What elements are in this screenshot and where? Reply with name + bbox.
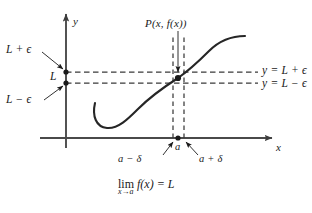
limit-caption: lim f(x) = Lx→a bbox=[118, 174, 174, 192]
label-line-upper-equation: y = L + ϵ bbox=[262, 65, 307, 77]
label-point-p: P(x, f(x)) bbox=[145, 18, 187, 29]
label-l-minus-epsilon: L − ϵ bbox=[6, 94, 31, 106]
label-l-plus-epsilon: L + ϵ bbox=[6, 44, 31, 56]
y-axis-dot-upper bbox=[63, 69, 68, 74]
label-line-lower-equation: y = L − ϵ bbox=[262, 78, 307, 90]
limit-function-equation: f(x) = L bbox=[137, 177, 174, 191]
label-l-value: L bbox=[50, 71, 57, 83]
label-a-minus-delta: a − δ bbox=[118, 154, 141, 165]
x-axis-label: x bbox=[276, 142, 281, 153]
leader-a-plus-delta bbox=[186, 142, 198, 155]
function-curve bbox=[94, 36, 245, 128]
limit-subscript: x→a bbox=[118, 187, 134, 196]
y-axis-dot-lower bbox=[63, 80, 68, 85]
limit-definition-figure: y x L + ϵ L − ϵ L P(x, f(x)) a − δ a + δ… bbox=[0, 0, 312, 213]
x-axis-dot-a bbox=[175, 135, 180, 140]
label-a-point: a bbox=[175, 142, 180, 153]
leader-l-plus-eps bbox=[42, 52, 63, 69]
limit-expression: lim f(x) = Lx→a bbox=[118, 177, 174, 192]
y-axis-label: y bbox=[73, 16, 78, 27]
label-a-plus-delta: a + δ bbox=[199, 154, 222, 165]
point-p-marker bbox=[175, 75, 181, 81]
leader-l-minus-eps bbox=[44, 86, 63, 100]
leader-a-minus-delta bbox=[163, 142, 173, 155]
